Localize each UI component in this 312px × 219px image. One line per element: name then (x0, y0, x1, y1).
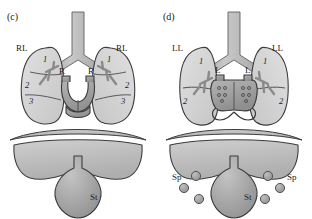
figure-container: (c) RL RL 1 2 3 1 2 3 R R St (0, 0, 312, 219)
label-spleen-left-d: Sp (172, 172, 182, 182)
splenule (263, 171, 272, 180)
panel-c: (c) RL RL 1 2 3 1 2 3 R R St (0, 0, 156, 219)
splenule (194, 194, 203, 203)
splenule (179, 183, 188, 192)
heart-left-isomerism-d (211, 75, 258, 120)
heart-right-isomerism-c (62, 76, 95, 118)
diaphragm-d (166, 130, 302, 141)
splenule (191, 171, 200, 180)
splenule (260, 194, 269, 203)
label-lung-left-c: RL (16, 43, 28, 53)
label-atrium-left-c: R (59, 66, 65, 76)
label-lung-right-c: RL (116, 43, 128, 53)
label-lung-right-d: LL (272, 43, 283, 53)
lobe-num-left-3-c: 3 (28, 96, 33, 106)
label-lung-left-d: LL (172, 43, 183, 53)
label-atrium-left-d: L (215, 65, 221, 75)
label-stomach-c: St (90, 192, 98, 202)
label-atrium-right-c: R (88, 66, 94, 76)
splenule (275, 183, 284, 192)
lobe-num-right-3-c: 3 (120, 96, 125, 106)
label-spleen-right-d: Sp (287, 172, 297, 182)
lobe-num-left-1-d: 1 (199, 56, 203, 66)
panel-d: (d) LL LL 1 2 1 2 L L Sp Sp St (156, 0, 312, 219)
panel-c-caption: (c) (7, 11, 18, 23)
diaphragm-c (10, 130, 146, 141)
label-stomach-d: St (244, 192, 252, 202)
panel-d-caption: (d) (163, 11, 175, 23)
lobe-num-right-1-c: 1 (107, 54, 111, 64)
lobe-num-left-1-c: 1 (43, 54, 47, 64)
lobe-num-right-1-d: 1 (263, 56, 267, 66)
label-atrium-right-d: L (245, 65, 251, 75)
